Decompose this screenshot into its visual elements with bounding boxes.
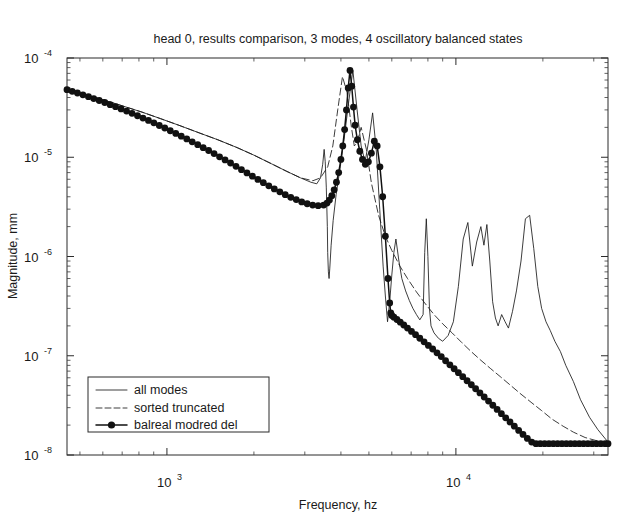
y-tick-label-1e-5: 10 -5 — [24, 147, 52, 165]
legend-marker-balreal-modred-del — [108, 421, 115, 428]
data-point-marker — [339, 143, 346, 150]
y-tick-exponent-1: -4 — [44, 48, 52, 58]
data-point-marker — [368, 150, 375, 157]
data-point-marker — [352, 122, 359, 129]
x-tick-exponent-1: 3 — [177, 472, 182, 482]
y-tick-exponent-4: -7 — [44, 346, 52, 356]
data-point-marker — [350, 104, 357, 111]
data-point-marker — [356, 148, 363, 155]
y-tick-exponent-2: -5 — [44, 147, 52, 157]
y-tick-label-1e-4: 10 -4 — [24, 48, 52, 66]
legend-label-all-modes: all modes — [134, 383, 188, 397]
x-tick-mantissa-2: 10 — [446, 475, 460, 490]
data-point-marker — [348, 83, 355, 90]
y-tick-mantissa-4: 10 — [24, 349, 38, 364]
legend-label-balreal-modred-del: balreal modred del — [134, 418, 238, 432]
chart-plot: head 0, results comparison, 3 modes, 4 o… — [0, 0, 638, 520]
x-tick-mantissa-1: 10 — [157, 475, 171, 490]
data-point-marker — [386, 300, 393, 307]
data-point-marker — [333, 179, 340, 186]
y-tick-mantissa-3: 10 — [24, 250, 38, 265]
data-point-marker — [377, 163, 384, 170]
data-point-marker — [347, 67, 354, 74]
y-tick-mantissa-5: 10 — [24, 448, 38, 463]
y-tick-exponent-3: -6 — [44, 247, 52, 257]
data-point-marker — [605, 440, 612, 447]
y-tick-label-1e-6: 10 -6 — [24, 247, 52, 265]
y-tick-exponent-5: -8 — [44, 445, 52, 455]
y-tick-label-1e-7: 10 -7 — [24, 346, 52, 364]
data-point-marker — [354, 136, 361, 143]
legend-label-sorted-truncated: sorted truncated — [134, 401, 224, 415]
chart-title: head 0, results comparison, 3 modes, 4 o… — [154, 32, 523, 46]
data-point-marker — [379, 193, 386, 200]
data-point-marker — [331, 186, 338, 193]
y-tick-mantissa-1: 10 — [24, 51, 38, 66]
data-point-marker — [328, 192, 335, 199]
data-point-marker — [382, 233, 389, 240]
figure-canvas: head 0, results comparison, 3 modes, 4 o… — [0, 0, 638, 520]
y-tick-label-1e-8: 10 -8 — [24, 445, 52, 463]
data-point-marker — [374, 143, 381, 150]
data-point-marker — [341, 126, 348, 133]
x-tick-exponent-2: 4 — [466, 472, 471, 482]
chart-legend[interactable]: all modes sorted truncated balreal modre… — [88, 377, 269, 432]
x-tick-label-1000: 10 3 — [157, 472, 182, 490]
y-tick-mantissa-2: 10 — [24, 150, 38, 165]
y-axis-title: Magnitude, mm — [6, 213, 20, 299]
x-tick-label-10000: 10 4 — [446, 472, 471, 490]
data-point-marker — [338, 156, 345, 163]
data-point-marker — [365, 158, 372, 165]
x-axis-title: Frequency, hz — [299, 498, 377, 512]
data-point-marker — [343, 107, 350, 114]
data-point-marker — [335, 169, 342, 176]
data-point-marker — [385, 275, 392, 282]
